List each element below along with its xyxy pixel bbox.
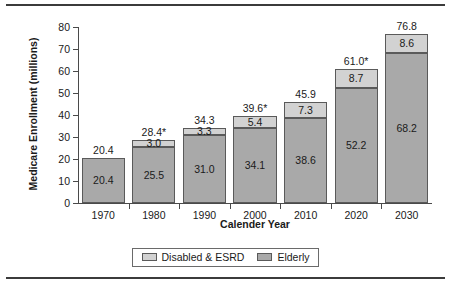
bar-value-elderly-2020: 52.2 [346, 140, 366, 151]
y-tick-label-80: 80 [44, 22, 70, 33]
y-tick-0 [73, 203, 78, 204]
bar-value-elderly-1970: 20.4 [93, 175, 113, 186]
bar-value-elderly-1990: 31.0 [194, 164, 214, 175]
bar-segment-disabled-esrd-2000: 5.4 [233, 116, 276, 128]
x-tick-6 [381, 203, 382, 209]
bar-segment-disabled-esrd-1990: 3.3 [183, 128, 226, 135]
bar-total-2000: 39.6* [233, 103, 276, 114]
bar-2000: 34.15.4 [233, 116, 276, 203]
x-tick-3 [230, 203, 231, 209]
y-axis-title: Medicare Enrollment (millions) [27, 19, 39, 209]
bar-segment-elderly-1980: 25.5 [132, 147, 175, 203]
bar-value-elderly-2010: 38.6 [295, 155, 315, 166]
y-tick-40 [73, 115, 78, 116]
bar-value-disabled-esrd-2000: 5.4 [248, 117, 263, 128]
bar-total-1970: 20.4 [82, 145, 125, 156]
bar-value-elderly-2030: 68.2 [396, 123, 416, 134]
legend-item-0: Disabled & ESRD [142, 252, 245, 263]
bar-1990: 31.03.3 [183, 128, 226, 203]
bar-total-2030: 76.8 [385, 21, 428, 32]
bar-segment-elderly-1990: 31.0 [183, 135, 226, 203]
bar-total-1980: 28.4* [132, 127, 175, 138]
legend-item-1: Elderly [257, 252, 309, 263]
bar-segment-elderly-2030: 68.2 [385, 53, 428, 203]
bar-value-disabled-esrd-2020: 8.7 [349, 73, 364, 84]
bar-value-disabled-esrd-2010: 7.3 [298, 105, 313, 116]
bar-1980: 25.53.0 [132, 140, 175, 203]
y-tick-70 [73, 49, 78, 50]
bar-value-elderly-1980: 25.5 [144, 170, 164, 181]
y-tick-50 [73, 93, 78, 94]
legend-label-0: Disabled & ESRD [162, 252, 245, 263]
legend-swatch-0 [142, 253, 157, 261]
stacked-bar-chart: Medicare Enrollment (millions) 010203040… [0, 0, 451, 286]
chart-legend: Disabled & ESRDElderly [132, 248, 320, 267]
x-axis-line [78, 203, 432, 204]
bar-segment-elderly-1970: 20.4 [82, 158, 125, 203]
bar-segment-disabled-esrd-2010: 7.3 [284, 102, 327, 118]
legend-swatch-1 [257, 253, 272, 261]
y-tick-10 [73, 181, 78, 182]
bar-total-1990: 34.3 [183, 115, 226, 126]
y-tick-60 [73, 71, 78, 72]
bar-segment-elderly-2020: 52.2 [335, 88, 378, 203]
y-tick-label-60: 60 [44, 66, 70, 77]
x-tick-4 [280, 203, 281, 209]
x-axis-title: Calender Year [78, 218, 432, 230]
y-tick-label-30: 30 [44, 132, 70, 143]
bar-total-2010: 45.9 [284, 89, 327, 100]
plot-area: 01020304050607080 1970198019902000201020… [78, 27, 432, 203]
bar-2010: 38.67.3 [284, 102, 327, 203]
bar-segment-elderly-2000: 34.1 [233, 128, 276, 203]
bar-segment-elderly-2010: 38.6 [284, 118, 327, 203]
bar-value-elderly-2000: 34.1 [245, 160, 265, 171]
y-tick-20 [73, 159, 78, 160]
bar-2020: 52.28.7 [335, 69, 378, 203]
bar-2030: 68.28.6 [385, 34, 428, 203]
y-tick-label-20: 20 [44, 154, 70, 165]
y-tick-label-50: 50 [44, 88, 70, 99]
legend-label-1: Elderly [277, 252, 309, 263]
bar-segment-disabled-esrd-1980: 3.0 [132, 140, 175, 147]
bar-1970: 20.4 [82, 158, 125, 203]
x-tick-2 [179, 203, 180, 209]
bar-segment-disabled-esrd-2020: 8.7 [335, 69, 378, 88]
y-tick-label-70: 70 [44, 44, 70, 55]
bar-segment-disabled-esrd-2030: 8.6 [385, 34, 428, 53]
y-axis-line [78, 27, 79, 203]
y-tick-label-0: 0 [44, 198, 70, 209]
bar-value-disabled-esrd-2030: 8.6 [399, 38, 414, 49]
y-tick-label-10: 10 [44, 176, 70, 187]
y-tick-80 [73, 27, 78, 28]
x-tick-5 [331, 203, 332, 209]
x-tick-1 [129, 203, 130, 209]
y-tick-label-40: 40 [44, 110, 70, 121]
bar-total-2020: 61.0* [335, 56, 378, 67]
y-tick-30 [73, 137, 78, 138]
